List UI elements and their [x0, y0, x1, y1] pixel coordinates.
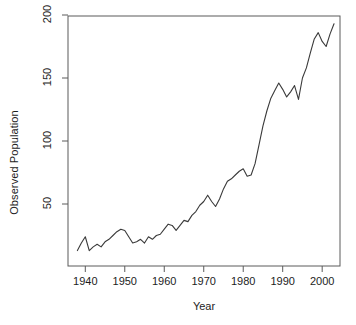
- y-tick-label: 200: [41, 0, 53, 29]
- series-line-observed-population: [77, 24, 334, 251]
- x-tick-label: 1970: [184, 275, 224, 287]
- y-tick-label: 50: [41, 188, 53, 218]
- line-chart: Observed Population Year 50100150200 194…: [0, 0, 356, 325]
- y-tick-label: 100: [41, 125, 53, 155]
- x-tick-label: 1980: [223, 275, 263, 287]
- x-tick-label: 1940: [65, 275, 105, 287]
- x-tick-label: 2000: [302, 275, 342, 287]
- x-tick-label: 1990: [263, 275, 303, 287]
- x-tick-label: 1960: [144, 275, 184, 287]
- x-axis-ticks: [85, 266, 322, 272]
- plot-box-border: [68, 16, 340, 266]
- y-axis-title-container: Observed Population: [2, 0, 26, 325]
- y-axis-title: Observed Population: [2, 0, 26, 325]
- y-tick-label: 150: [41, 62, 53, 92]
- x-tick-label: 1950: [105, 275, 145, 287]
- y-axis-ticks: [62, 15, 68, 204]
- x-axis-title: Year: [68, 300, 340, 312]
